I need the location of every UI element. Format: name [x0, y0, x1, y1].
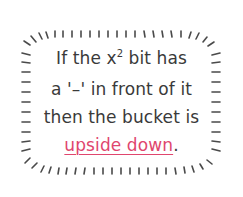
tip-line-1: If the x2 bit has [30, 44, 213, 75]
highlighted-phrase: upside down [64, 135, 173, 155]
tip-callout: If the x2 bit has a '–' in front of it t… [0, 0, 243, 197]
tip-line-4-end: . [173, 135, 179, 155]
tip-line-1-start: If the x [56, 48, 117, 68]
tip-line-3: then the bucket is [30, 103, 213, 131]
tip-text: If the x2 bit has a '–' in front of it t… [30, 44, 213, 159]
tip-line-1-end: bit has [123, 48, 187, 68]
tip-line-2: a '–' in front of it [30, 75, 213, 103]
superscript-exponent: 2 [117, 48, 123, 59]
tip-line-4: upside down. [30, 131, 213, 159]
